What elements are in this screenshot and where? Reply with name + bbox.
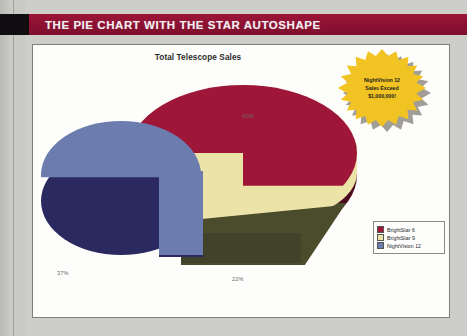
star-callout-line-1: NightVision 12 <box>364 76 400 84</box>
page-gutter-line <box>13 0 14 336</box>
star-callout-line-2: Sales Exceed <box>365 84 398 92</box>
data-label-brightstar6: 41% <box>242 113 254 119</box>
legend-label: NightVision 12 <box>387 243 421 249</box>
legend-item-brightstar9: BrightStar 9 <box>377 234 441 241</box>
legend-item-nightvision12: NightVision 12 <box>377 242 441 249</box>
pie-plot-area: 41% 22% 37% <box>33 63 363 313</box>
star-callout-line-3: $1,000,000! <box>368 92 396 100</box>
star-shape: NightVision 12 Sales Exceed $1,000,000! <box>338 49 426 127</box>
data-label-nightvision12: 37% <box>57 270 69 276</box>
banner-black-tab <box>0 14 29 35</box>
pie-slice-nightvision12-exploded <box>41 121 211 276</box>
legend-swatch-icon <box>377 234 384 241</box>
pie-slice-nightvision12-flat-face <box>159 171 203 255</box>
star-autoshape-callout[interactable]: NightVision 12 Sales Exceed $1,000,000! <box>338 49 434 135</box>
legend-swatch-icon <box>377 242 384 249</box>
section-title: THE PIE CHART WITH THE STAR AUTOSHAPE <box>45 19 321 31</box>
legend-label: BrightStar 6 <box>387 227 415 233</box>
section-header-banner: THE PIE CHART WITH THE STAR AUTOSHAPE <box>0 14 467 35</box>
data-label-brightstar9: 22% <box>232 276 244 282</box>
legend-label: BrightStar 9 <box>387 235 415 241</box>
scanned-page: THE PIE CHART WITH THE STAR AUTOSHAPE To… <box>0 0 467 336</box>
chart-legend: BrightStar 6 BrightStar 9 NightVision 12 <box>373 221 445 254</box>
legend-swatch-icon <box>377 226 384 233</box>
chart-frame: Total Telescope Sales 4 <box>32 44 450 318</box>
page-gutter-shadow <box>0 0 14 336</box>
chart-title: Total Telescope Sales <box>33 53 363 62</box>
banner-red-bar: THE PIE CHART WITH THE STAR AUTOSHAPE <box>29 14 467 35</box>
legend-item-brightstar6: BrightStar 6 <box>377 226 441 233</box>
